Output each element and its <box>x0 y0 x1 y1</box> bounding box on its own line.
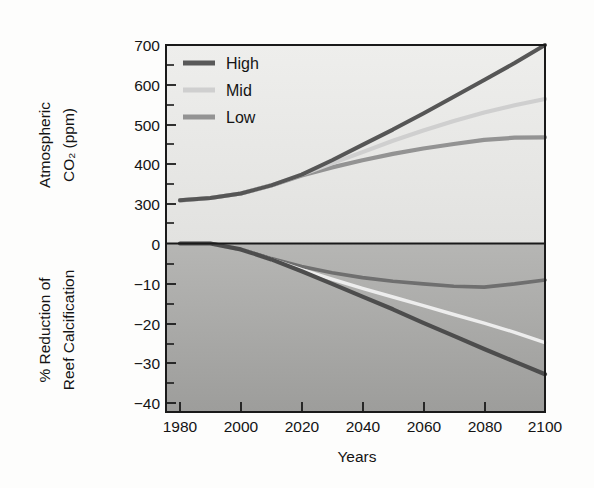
co2-y-axis-title-line2: CO₂ (ppm) <box>60 108 77 182</box>
xtick-label-2060: 2060 <box>407 418 442 435</box>
chart-figure: 700 600 500 400 300 0 −10 −20 −30 −40 19… <box>0 0 594 488</box>
xtick-label-1980: 1980 <box>163 418 198 435</box>
calcification-ytick-label-minus40: −40 <box>134 395 161 412</box>
co2-ytick-label-700: 700 <box>134 37 160 54</box>
xtick-label-2040: 2040 <box>346 418 381 435</box>
xtick-label-2080: 2080 <box>468 418 503 435</box>
co2-panel-background <box>166 45 545 243</box>
calcification-ytick-label-minus10: −10 <box>134 276 161 293</box>
xtick-label-2100: 2100 <box>528 418 563 435</box>
calcification-ytick-label-0: 0 <box>151 236 160 253</box>
legend-label-low: Low <box>226 109 256 126</box>
calcification-ytick-label-minus30: −30 <box>134 355 161 372</box>
co2-y-axis-title-line1: Atmospheric <box>36 102 53 188</box>
calcification-panel-background <box>166 243 545 412</box>
co2-ytick-label-400: 400 <box>134 156 160 173</box>
x-axis-title: Years <box>337 448 376 465</box>
chart-canvas: 700 600 500 400 300 0 −10 −20 −30 −40 19… <box>0 0 594 488</box>
co2-ytick-label-600: 600 <box>134 77 160 94</box>
co2-ytick-label-300: 300 <box>134 196 160 213</box>
legend-label-mid: Mid <box>226 82 252 99</box>
legend-label-high: High <box>226 55 259 72</box>
calcification-y-axis-title-line1: % Reduction of <box>36 277 53 383</box>
co2-ytick-label-500: 500 <box>134 117 160 134</box>
xtick-label-2020: 2020 <box>285 418 320 435</box>
calcification-y-axis-title-line2: Reef Calcification <box>60 270 77 391</box>
xtick-label-2000: 2000 <box>224 418 259 435</box>
calcification-ytick-label-minus20: −20 <box>134 316 161 333</box>
